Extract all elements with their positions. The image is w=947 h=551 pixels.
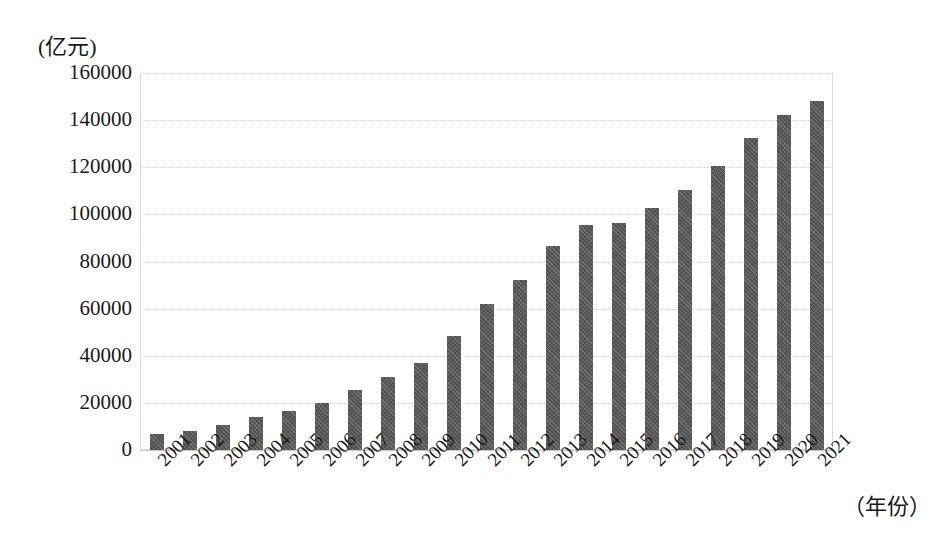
bar: [777, 115, 791, 450]
bar: [480, 304, 494, 450]
y-axis-tick-label: 100000: [12, 203, 132, 224]
bar: [513, 280, 527, 450]
x-axis-tick-labels: 2001200220032004200520062007200820092010…: [140, 450, 833, 520]
y-axis-tick-label: 120000: [12, 156, 132, 177]
bar: [645, 208, 659, 450]
x-axis-unit-label: （年份）: [843, 488, 931, 520]
bar: [711, 166, 725, 450]
y-axis-tick-label: 160000: [12, 62, 132, 83]
y-axis-unit-label: (亿元): [38, 28, 97, 60]
bar: [744, 138, 758, 450]
y-axis-tick-label: 40000: [12, 345, 132, 366]
y-axis-tick-label: 20000: [12, 392, 132, 413]
y-axis-tick-labels: 1600001400001200001000008000060000400002…: [4, 73, 132, 450]
bar: [579, 225, 593, 450]
bar: [546, 246, 560, 450]
y-axis-tick-label: 140000: [12, 109, 132, 130]
y-axis-tick-label: 60000: [12, 298, 132, 319]
bar-series: [140, 73, 833, 450]
y-axis-tick-label: 0: [12, 439, 132, 460]
bar-chart: (亿元) 16000014000012000010000080000600004…: [0, 0, 947, 551]
y-axis-tick-label: 80000: [12, 251, 132, 272]
bar: [678, 190, 692, 450]
bar: [810, 101, 824, 450]
bar: [612, 223, 626, 450]
